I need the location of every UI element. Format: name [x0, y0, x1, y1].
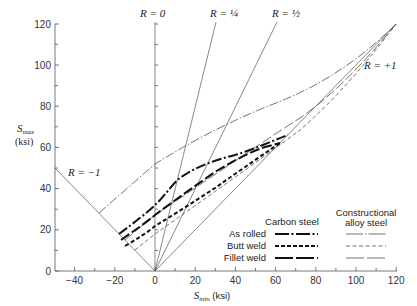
alloy-as-rolled-curve [99, 24, 396, 213]
x-tick-label: 40 [230, 275, 242, 286]
r-minus-one-label: R = −1 [67, 166, 101, 178]
x-tick-label: −40 [66, 275, 83, 286]
y-tick-label: 60 [40, 142, 52, 153]
r-quarter-line [155, 22, 216, 271]
r-half-label: R = ½ [271, 7, 300, 19]
stress-ratio-lines [55, 22, 396, 271]
legend-carbon-steel-header: Carbon steel [265, 216, 319, 227]
x-axis-title: Smin (ksi) [194, 289, 231, 303]
x-tick-labels: −40 −20 0 20 40 60 80 100 120 [66, 275, 405, 286]
y-tick-labels: 0 20 40 60 80 100 120 [34, 19, 51, 277]
axes [55, 24, 397, 271]
legend-alloy-steel-header-line2: alloy steel [345, 217, 387, 228]
y-axis-unit: (ksi) [15, 136, 33, 148]
carbon-fillet-weld-curve [121, 143, 280, 240]
x-tick-label: 120 [388, 275, 405, 286]
x-tick-label: 80 [310, 275, 322, 286]
legend-fillet-weld-label: Fillet weld [224, 252, 266, 263]
x-tick-label: 100 [348, 275, 365, 286]
y-tick-label: 20 [40, 224, 52, 235]
r-minus-one-line [55, 168, 155, 271]
x-tick-label: 60 [270, 275, 282, 286]
x-tick-label: 20 [190, 275, 202, 286]
carbon-as-rolled-curve [119, 135, 288, 234]
legend-butt-weld-label: Butt weld [227, 240, 266, 251]
goodman-diagram: 0 20 40 60 80 100 120 −40 −20 0 20 40 60… [0, 0, 417, 306]
y-tick-label: 80 [40, 101, 52, 112]
r-plus-one-label: R = +1 [363, 59, 397, 71]
y-axis-title: Smax [17, 122, 35, 136]
r-zero-label: R = 0 [139, 7, 166, 19]
y-tick-label: 120 [34, 19, 51, 30]
y-tick-label: 40 [40, 183, 52, 194]
r-quarter-label: R = ¼ [209, 7, 238, 19]
x-tick-label: 0 [152, 275, 158, 286]
x-tick-label: −20 [106, 275, 123, 286]
legend-as-rolled-label: As rolled [229, 228, 266, 239]
y-tick-label: 0 [45, 266, 51, 277]
y-tick-label: 100 [34, 60, 51, 71]
legend: Carbon steel Constructional alloy steel … [224, 207, 397, 263]
